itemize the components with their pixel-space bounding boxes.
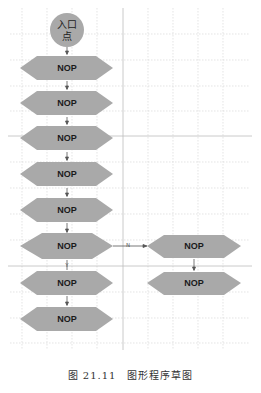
svg-text:NOP: NOP [57, 169, 77, 179]
node-nop-right-2[interactable]: NOP [147, 272, 241, 295]
entry-label-line1: 入口 [57, 19, 77, 30]
node-nop-3[interactable]: NOP [20, 126, 113, 150]
entry-node[interactable]: 入口 点 [50, 13, 84, 47]
svg-text:NOP: NOP [57, 63, 77, 73]
node-nop-8[interactable]: NOP [20, 307, 113, 331]
svg-text:NOP: NOP [57, 314, 77, 324]
svg-text:NOP: NOP [57, 205, 77, 215]
figure-caption: 图 21.11 图形程序草图 [0, 367, 261, 382]
svg-text:NOP: NOP [184, 241, 204, 251]
svg-text:NOP: NOP [184, 278, 204, 288]
node-nop-4[interactable]: NOP [20, 162, 113, 186]
flowchart-canvas: 入口 点 N Y NOP NOP NOP NOP NOP NOP NOP NOP… [0, 0, 261, 360]
svg-text:NOP: NOP [57, 133, 77, 143]
node-nop-7[interactable]: NOP [20, 271, 113, 295]
svg-text:NOP: NOP [57, 241, 77, 251]
node-nop-5[interactable]: NOP [20, 198, 113, 222]
edge-label-no: N [126, 242, 130, 248]
entry-label-line2: 点 [62, 31, 72, 42]
decision-node-nop[interactable]: NOP [20, 233, 113, 259]
node-nop-1[interactable]: NOP [20, 56, 113, 80]
svg-text:NOP: NOP [57, 278, 77, 288]
node-nop-2[interactable]: NOP [20, 91, 113, 115]
edge-label-yes: Y [65, 262, 69, 268]
svg-text:NOP: NOP [57, 98, 77, 108]
node-nop-right-1[interactable]: NOP [147, 235, 241, 258]
